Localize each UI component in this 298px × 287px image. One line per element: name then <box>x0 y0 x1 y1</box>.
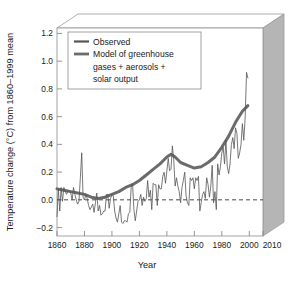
box-right-face <box>263 14 284 236</box>
legend-label-model-line1: Model of greenhouse <box>93 49 174 59</box>
y-tick-label: 0.8 <box>41 84 53 94</box>
y-tick-label: 1.0 <box>41 56 53 66</box>
y-tick-label: 0.4 <box>41 139 53 149</box>
x-axis-title: Year <box>138 260 157 270</box>
x-tick-label: 1920 <box>130 240 149 250</box>
x-tick-label: 1980 <box>212 240 231 250</box>
temperature-change-chart-figure: 1.2 1.0 0.8 0.6 0.4 0.2 0.0 −0.2 1860 18… <box>0 0 298 287</box>
box-top-face <box>57 14 284 28</box>
x-tick-label: 1860 <box>48 240 67 250</box>
y-axis-tick-labels: 1.2 1.0 0.8 0.6 0.4 0.2 0.0 −0.2 <box>36 28 53 232</box>
x-axis-tick-labels: 1860 1880 1900 1920 1940 1960 1980 2000 … <box>48 240 282 250</box>
y-axis-title: Temperature change (°C) from 1860–1999 m… <box>5 33 15 231</box>
legend-label-model-line2: gases + aerosols + <box>93 62 166 72</box>
x-tick-label: 1960 <box>185 240 204 250</box>
y-tick-label: −0.2 <box>36 223 53 233</box>
x-tick-label: 1900 <box>103 240 122 250</box>
y-tick-label: 0.6 <box>41 112 53 122</box>
chart-legend: Observed Model of greenhouse gases + aer… <box>68 32 201 89</box>
y-tick-label: 1.2 <box>41 28 53 38</box>
x-tick-label: 1880 <box>75 240 94 250</box>
y-tick-label: 0.0 <box>41 195 53 205</box>
legend-label-observed: Observed <box>93 37 130 47</box>
chart-canvas: 1.2 1.0 0.8 0.6 0.4 0.2 0.0 −0.2 1860 18… <box>0 0 298 287</box>
legend-label-model-line3: solar output <box>93 74 139 84</box>
y-tick-label: 0.2 <box>41 167 53 177</box>
x-tick-label: 2010 <box>263 240 282 250</box>
x-tick-label: 2000 <box>240 240 259 250</box>
x-tick-label: 1940 <box>158 240 177 250</box>
